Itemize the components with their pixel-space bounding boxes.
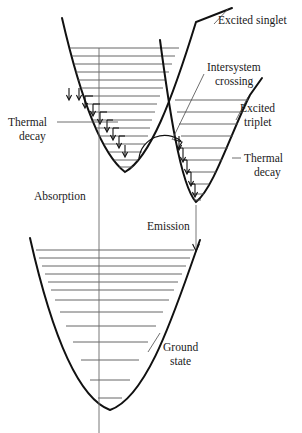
ground-state-well [30,238,200,410]
decay-arrow [66,88,71,100]
decay-arrow [110,128,115,140]
energy-level-diagram: Excited singlet Intersystem crossing Exc… [0,0,302,433]
excited-singlet-well [62,8,232,172]
decay-arrow [90,104,95,116]
label-thermal-decay-left-line1: Thermal [8,116,47,128]
label-thermal-decay-right-line2: decay [254,166,281,179]
label-thermal-decay-left-line2: decay [19,130,46,143]
label-excited-triplet-line1: Excited [240,102,275,114]
label-intersystem-crossing-line1: Intersystem [207,61,261,74]
diagram-canvas: Excited singlet Intersystem crossing Exc… [0,0,302,433]
decay-arrow [192,184,197,197]
ground-state-curve [30,238,200,410]
intersystem-crossing-leader [172,74,204,140]
excited-triplet-vibrational-levels [175,100,248,200]
label-ground-state-line2: state [170,355,191,367]
excited-singlet-curve [62,8,232,172]
label-absorption: Absorption [34,190,86,203]
label-excited-triplet-line2: triplet [244,116,272,129]
thermal-decay-cascade-singlet [66,88,127,157]
label-ground-state-line1: Ground [163,341,198,353]
decay-arrow [122,145,127,157]
label-excited-singlet: Excited singlet [218,14,287,27]
label-thermal-decay-right-line1: Thermal [244,152,283,164]
label-intersystem-crossing-line2: crossing [215,75,254,88]
decay-arrow [116,136,121,148]
label-emission: Emission [147,220,190,232]
